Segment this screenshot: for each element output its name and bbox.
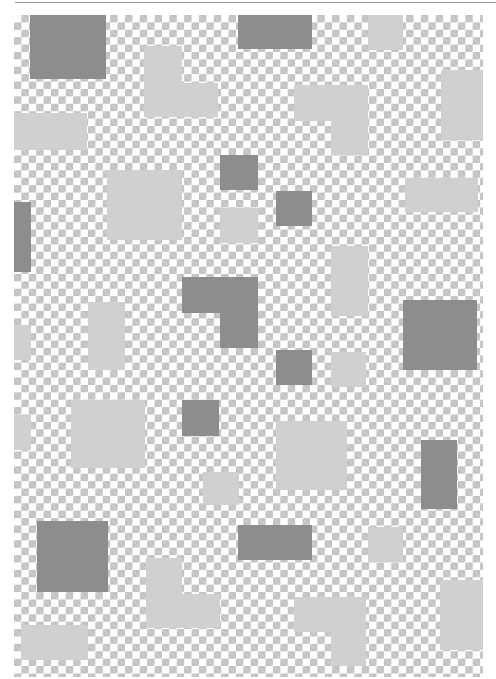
light-block (182, 594, 220, 628)
dark-block (182, 277, 258, 313)
dark-block (37, 521, 108, 592)
light-block (331, 120, 368, 155)
light-block (405, 178, 478, 212)
light-block (14, 415, 31, 450)
dark-block (421, 440, 457, 509)
light-block (88, 302, 125, 370)
light-block (14, 325, 31, 360)
dark-block (220, 312, 258, 348)
dark-block (276, 350, 312, 385)
dark-block (220, 155, 258, 190)
light-block (368, 527, 403, 562)
light-block (71, 400, 145, 468)
top-edge-line (15, 2, 496, 3)
dark-block (30, 15, 106, 79)
light-block (107, 170, 182, 240)
light-block (220, 208, 258, 243)
light-block (440, 580, 483, 650)
light-block (294, 597, 366, 632)
dark-block (14, 202, 31, 272)
light-block (146, 558, 182, 628)
light-block (144, 83, 218, 117)
dark-block (238, 15, 312, 49)
light-block (368, 15, 403, 50)
dark-block (238, 525, 312, 560)
light-block (144, 46, 182, 84)
dark-block (276, 191, 312, 226)
light-block (441, 70, 483, 140)
dark-block (182, 400, 219, 436)
light-block (294, 85, 368, 121)
dark-block (403, 300, 477, 370)
light-block (331, 246, 368, 316)
light-block (14, 113, 87, 150)
light-block (331, 352, 366, 387)
light-block (21, 625, 88, 660)
light-block (331, 632, 366, 666)
light-block (203, 472, 239, 505)
light-block (276, 421, 347, 490)
